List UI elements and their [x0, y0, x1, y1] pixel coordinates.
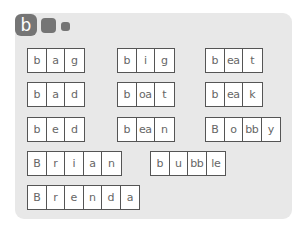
phoneme-cell: k	[243, 83, 262, 106]
phoneme-cell: b	[206, 83, 225, 106]
phoneme-cell: n	[84, 186, 103, 209]
badge-square-small	[61, 22, 70, 31]
phoneme-cell: B	[28, 152, 47, 175]
word-bad: b a d	[27, 82, 85, 107]
word-big: b i g	[117, 48, 175, 73]
word-brian: B r i a n	[27, 151, 122, 176]
phoneme-cell: b	[118, 49, 137, 72]
word-brenda: B r e n d a	[27, 185, 140, 210]
phoneme-cell: r	[47, 152, 66, 175]
phoneme-cell: ea	[225, 49, 244, 72]
phoneme-cell: t	[243, 49, 262, 72]
word-beat: b ea t	[205, 48, 263, 73]
phoneme-cell: a	[47, 49, 66, 72]
phoneme-cell: d	[65, 83, 84, 106]
phoneme-cell: b	[118, 83, 137, 106]
letter-badge: b	[15, 14, 37, 36]
phoneme-cell: d	[102, 186, 121, 209]
badge-square-medium	[41, 18, 56, 33]
phoneme-cell: o	[225, 118, 244, 141]
phoneme-cell: e	[47, 118, 66, 141]
phoneme-cell: e	[65, 186, 84, 209]
phoneme-cell: b	[28, 83, 47, 106]
word-bed: b e d	[27, 117, 85, 142]
word-bag: b a g	[27, 48, 85, 73]
phoneme-cell: b	[28, 49, 47, 72]
word-bubble: b u bb le	[150, 151, 226, 176]
phoneme-cell: g	[65, 49, 84, 72]
phoneme-cell: bb	[188, 152, 207, 175]
phoneme-cell: b	[206, 49, 225, 72]
phoneme-cell: ea	[225, 83, 244, 106]
phoneme-cell: B	[28, 186, 47, 209]
phoneme-cell: le	[207, 152, 226, 175]
phoneme-cell: a	[84, 152, 103, 175]
phoneme-cell: i	[65, 152, 84, 175]
phoneme-cell: t	[155, 83, 174, 106]
phoneme-cell: g	[155, 49, 174, 72]
phoneme-cell: bb	[243, 118, 262, 141]
phoneme-cell: b	[151, 152, 170, 175]
phoneme-cell: i	[137, 49, 156, 72]
phoneme-cell: n	[102, 152, 121, 175]
phoneme-cell: a	[47, 83, 66, 106]
word-boat: b oa t	[117, 82, 175, 107]
phoneme-cell: d	[65, 118, 84, 141]
phoneme-cell: r	[47, 186, 66, 209]
phoneme-cell: ea	[137, 118, 156, 141]
phoneme-cell: B	[206, 118, 225, 141]
word-bean: b ea n	[117, 117, 175, 142]
phoneme-cell: u	[170, 152, 189, 175]
phoneme-cell: y	[262, 118, 281, 141]
phoneme-cell: oa	[137, 83, 156, 106]
phoneme-cell: b	[118, 118, 137, 141]
word-beak: b ea k	[205, 82, 263, 107]
phoneme-cell: a	[121, 186, 140, 209]
phoneme-cell: n	[155, 118, 174, 141]
word-bobby: B o bb y	[205, 117, 281, 142]
phoneme-cell: b	[28, 118, 47, 141]
badge-letter: b	[21, 17, 32, 34]
